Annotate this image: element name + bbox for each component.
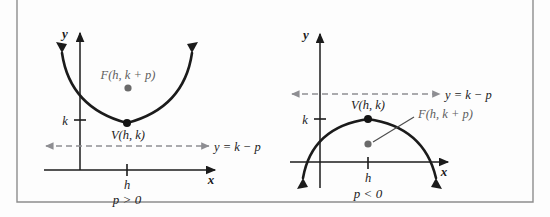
left-y-axis-label: y bbox=[60, 26, 68, 41]
left-curve-arrow-left bbox=[56, 42, 67, 53]
parabola-figure: y x k h F(h, k + p) V(h, k) y = k − p p … bbox=[0, 0, 550, 217]
panel-right: y x k h V(h, k) F(h, k + p) y = k − p p … bbox=[290, 27, 492, 201]
right-directrix-label: y = k − p bbox=[443, 88, 492, 102]
left-vertex-label: V(h, k) bbox=[111, 128, 145, 142]
right-k-tick-label: k bbox=[302, 113, 308, 127]
left-x-axis-label: x bbox=[207, 172, 215, 187]
left-curve-arrow-right bbox=[187, 42, 198, 53]
right-x-axis-label: x bbox=[440, 164, 448, 179]
right-y-axis-label: y bbox=[301, 27, 309, 42]
left-condition-label: p > 0 bbox=[112, 192, 142, 207]
panel-left: y x k h F(h, k + p) V(h, k) y = k − p p … bbox=[44, 26, 261, 207]
right-focus-dot bbox=[364, 140, 371, 147]
right-focus-label: F(h, k + p) bbox=[417, 107, 473, 121]
left-focus-label: F(h, k + p) bbox=[100, 68, 156, 82]
left-h-tick-label: h bbox=[124, 178, 130, 192]
left-k-tick-label: k bbox=[62, 114, 68, 128]
right-curve-arrow-left bbox=[297, 178, 308, 189]
left-directrix-label: y = k − p bbox=[212, 140, 261, 154]
right-condition-label: p < 0 bbox=[353, 186, 383, 201]
right-h-tick-label: h bbox=[365, 171, 371, 185]
right-vertex-label: V(h, k) bbox=[351, 98, 385, 112]
right-parabola-curve bbox=[303, 119, 436, 178]
right-vertex-dot bbox=[364, 115, 372, 123]
left-focus-dot bbox=[124, 84, 131, 91]
right-curve-arrow-right bbox=[431, 178, 442, 189]
left-vertex-dot bbox=[123, 119, 131, 127]
